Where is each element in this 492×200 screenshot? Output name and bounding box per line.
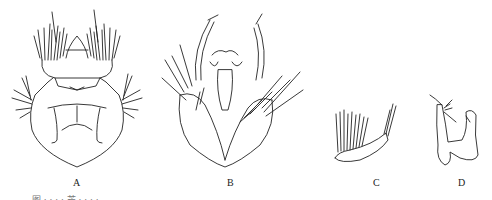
setae-tuft-a-side-left (12, 76, 32, 118)
panel-a-drawing (12, 10, 142, 167)
panel-label-d: D (458, 177, 465, 188)
setae-b (162, 14, 303, 122)
setae-tuft-a-right (87, 10, 120, 60)
setae-tuft-a-left (34, 12, 67, 60)
panel-label-c: C (373, 177, 380, 188)
figure-illustration (0, 0, 492, 200)
setae-tuft-a-side-right (122, 74, 142, 118)
panel-d-drawing (430, 95, 478, 165)
panel-label-b: B (227, 177, 234, 188)
panel-label-a: A (73, 177, 80, 188)
panel-b-drawing (162, 14, 303, 167)
figure-caption: 图 · · · · 芒 · · · · (32, 194, 99, 200)
panel-c-drawing (335, 104, 396, 162)
